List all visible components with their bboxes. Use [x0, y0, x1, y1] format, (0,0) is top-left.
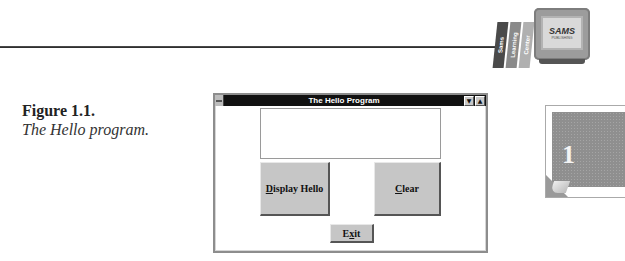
header-rule — [0, 46, 505, 48]
sams-learning-center-logo: Sams Learning Center SAMS PUBLISHING — [495, 6, 615, 68]
figure-description: The Hello program. — [22, 120, 149, 140]
brand-subtitle: PUBLISHING — [551, 36, 572, 40]
chapter-number: 1 — [562, 140, 575, 170]
output-textbox[interactable] — [260, 108, 441, 159]
maximize-icon: ▲ — [478, 97, 483, 104]
display-hello-label: isplay Hello — [273, 183, 323, 194]
brand-name: SAMS — [549, 27, 575, 36]
clear-label: lear — [402, 183, 419, 194]
exit-button[interactable]: Exit — [330, 224, 374, 243]
display-hello-mnemonic: D — [266, 183, 273, 194]
monitor-icon: SAMS PUBLISHING — [534, 8, 590, 60]
figure-label: Figure 1.1. — [22, 102, 149, 120]
minimize-icon: ▼ — [467, 97, 472, 104]
exit-label-pre: E — [343, 228, 350, 239]
system-menu-icon — [216, 100, 222, 102]
monitor-base — [539, 59, 585, 64]
clear-mnemonic: C — [395, 183, 402, 194]
figure-caption: Figure 1.1. The Hello program. — [22, 102, 149, 140]
minimize-button[interactable]: ▼ — [464, 96, 474, 106]
monitor-screen: SAMS PUBLISHING — [541, 16, 583, 50]
exit-label-rest: it — [354, 228, 360, 239]
maximize-button[interactable]: ▲ — [475, 96, 485, 106]
chapter-tab: 1 — [545, 105, 625, 198]
book-spine-center: Center — [519, 22, 535, 68]
system-menu-button[interactable] — [215, 95, 224, 106]
display-hello-button[interactable]: Display Hello — [260, 162, 330, 216]
clear-button[interactable]: Clear — [374, 162, 441, 216]
title-bar[interactable]: The Hello Program ▼ ▲ — [215, 95, 486, 106]
hello-program-window: The Hello Program ▼ ▲ Display Hello Clea… — [213, 93, 488, 253]
window-title: The Hello Program — [224, 95, 464, 106]
